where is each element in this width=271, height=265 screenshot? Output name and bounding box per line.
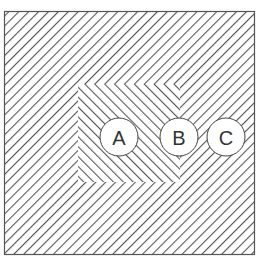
circle-c: C xyxy=(207,118,245,156)
circle-c-label: C xyxy=(219,127,233,149)
circle-a: A xyxy=(100,118,138,156)
circle-b-label: B xyxy=(172,127,185,149)
circle-a-label: A xyxy=(112,127,126,149)
illusion-figure: A B C xyxy=(0,0,271,265)
circle-b: B xyxy=(160,118,198,156)
